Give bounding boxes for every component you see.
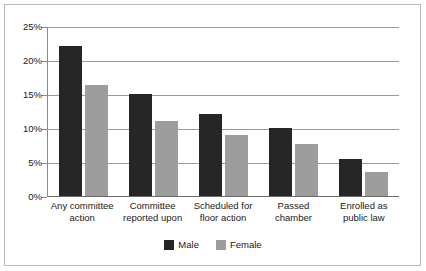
bar-male [129, 94, 152, 196]
x-axis-category-label: Enrolled aspublic law [329, 200, 399, 236]
x-axis-category-line: Any committee [48, 200, 116, 212]
bar-group [118, 27, 188, 196]
y-axis-tick-label: 20% [2, 56, 42, 66]
plot-area [47, 27, 399, 197]
bar-group [188, 27, 258, 196]
bar-male [59, 46, 82, 196]
x-axis-category-line: action [48, 212, 116, 224]
bar-male [199, 114, 222, 196]
bar-female [155, 121, 178, 196]
x-axis-category-label: Scheduled forfloor action [188, 200, 258, 236]
x-axis-category-labels: Any committeeactionCommitteereported upo… [47, 200, 399, 236]
x-axis-category-line: public law [330, 212, 398, 224]
y-axis-labels: 25%20%15%10%5%0% [0, 27, 42, 197]
x-axis-category-label: Any committeeaction [47, 200, 117, 236]
bar-female [295, 144, 318, 196]
x-axis-category-line: Enrolled as [330, 200, 398, 212]
bar-group [48, 27, 118, 196]
y-axis-tick-label: 25% [2, 22, 42, 32]
legend-label: Male [178, 240, 199, 250]
x-axis-category-line: Scheduled for [189, 200, 257, 212]
x-axis-category-line: floor action [189, 212, 257, 224]
legend-swatch-icon [164, 240, 174, 250]
x-axis-category-label: Committeereported upon [117, 200, 187, 236]
legend-item-female: Female [216, 240, 262, 250]
y-axis-tick-label: 5% [2, 158, 42, 168]
x-axis-category-label: Passedchamber [258, 200, 328, 236]
y-axis-tick-label: 0% [2, 192, 42, 202]
x-axis-category-line: chamber [259, 212, 327, 224]
legend-label: Female [230, 240, 262, 250]
bar-series-container [48, 27, 399, 196]
x-axis-category-line: reported upon [118, 212, 186, 224]
bar-female [225, 135, 248, 196]
y-axis-tick-label: 15% [2, 90, 42, 100]
bar-male [269, 128, 292, 196]
x-axis-category-line: Passed [259, 200, 327, 212]
bar-group [329, 27, 399, 196]
legend-swatch-icon [216, 240, 226, 250]
chart-legend: MaleFemale [0, 240, 426, 250]
grouped-bar-chart: 25%20%15%10%5%0% Any committeeactionComm… [0, 0, 426, 271]
bar-female [365, 172, 388, 196]
x-axis-category-line: Committee [118, 200, 186, 212]
bar-group [259, 27, 329, 196]
bar-male [339, 159, 362, 196]
legend-item-male: Male [164, 240, 199, 250]
y-axis-tick-label: 10% [2, 124, 42, 134]
bar-female [85, 85, 108, 196]
